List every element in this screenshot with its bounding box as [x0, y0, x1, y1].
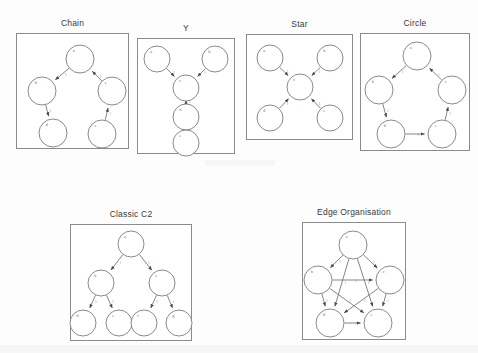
node-b — [304, 266, 332, 294]
edge-label-c-f: 1 — [156, 300, 158, 304]
node-d — [39, 119, 67, 147]
edge-label-a-b: 1 — [65, 73, 67, 77]
node-a — [339, 231, 367, 259]
edge-label-a-c: 1 — [286, 70, 288, 74]
edge-label-b-c: 1 — [355, 279, 357, 283]
node-b — [365, 76, 393, 104]
edge-e-to-c — [445, 107, 448, 120]
node-label-c: c — [179, 78, 181, 83]
node-g — [166, 310, 192, 336]
node-d — [173, 104, 199, 130]
node-a — [118, 231, 144, 257]
graph-circle: 11111abcde — [354, 18, 476, 154]
node-a — [257, 45, 283, 71]
node-e — [88, 120, 116, 148]
network-topologies-figure: Chain1111abcdeY1111abcdeStar1111abcdeCir… — [0, 0, 478, 353]
node-label-c: c — [445, 79, 447, 84]
edge-label-c-d: 1 — [364, 299, 366, 303]
edge-label-a-e: 1 — [368, 281, 370, 285]
node-label-c: c — [105, 80, 107, 85]
node-e — [106, 310, 132, 336]
node-c — [438, 76, 466, 104]
node-e — [364, 309, 392, 337]
edge-label-b-d: 1 — [95, 300, 97, 304]
edge-label-e-c: 1 — [449, 112, 451, 116]
edge-label-e-c: 1 — [109, 112, 111, 116]
node-label-c: c — [293, 77, 295, 82]
node-b — [28, 77, 56, 105]
edge-e-to-c — [105, 108, 108, 120]
node-label-e: e — [179, 133, 181, 138]
node-label-e: e — [371, 312, 373, 317]
edge-label-d-e: 1 — [355, 322, 357, 326]
edge-b-to-e — [330, 288, 364, 312]
node-c — [98, 77, 126, 105]
edge-a-to-b — [392, 66, 406, 79]
node-label-a: a — [150, 49, 152, 54]
node-d — [257, 105, 283, 131]
node-c — [376, 266, 404, 294]
node-c — [149, 270, 175, 296]
edge-label-b-c: 1 — [319, 70, 321, 74]
edge-label-c-a: 1 — [100, 75, 102, 79]
edge-label-a-b: 1 — [339, 260, 341, 264]
node-label-a: a — [263, 48, 265, 53]
edge-c-to-e — [383, 294, 386, 306]
edge-a-to-b — [55, 68, 69, 79]
panel-classic-c2: Classic C2111111abcdefg — [64, 209, 198, 344]
edge-label-a-b: 1 — [119, 261, 121, 265]
node-label-a: a — [124, 234, 126, 239]
edge-label-a-c: 1 — [148, 261, 150, 265]
node-label-b: b — [94, 273, 96, 278]
edge-label-a-d: 1 — [344, 281, 346, 285]
nodes-classic-c2: abcdefg — [70, 231, 192, 336]
node-e — [173, 130, 199, 156]
node-f — [131, 310, 157, 336]
edge-label-b-d: 1 — [326, 299, 328, 303]
edge-label-b-d: 1 — [50, 109, 52, 113]
node-label-e: e — [112, 313, 114, 318]
node-label-b: b — [372, 79, 374, 84]
node-label-e: e — [323, 108, 325, 113]
edge-label-a-c: 1 — [373, 260, 375, 264]
panel-y: Y1111abcde — [131, 23, 241, 157]
edge-label-b-d: 1 — [387, 109, 389, 113]
edge-label-b-c: 1 — [204, 71, 206, 75]
node-label-a: a — [346, 234, 348, 239]
panel-star: Star1111abcde — [240, 19, 359, 143]
edge-b-to-d — [383, 104, 387, 117]
edge-a-to-c — [364, 255, 378, 268]
node-a — [144, 46, 170, 72]
nodes-star: abcde — [257, 45, 343, 131]
node-label-b: b — [208, 49, 210, 54]
node-c — [173, 75, 199, 101]
node-label-a: a — [410, 45, 412, 50]
node-label-b: b — [311, 269, 313, 274]
panel-chain: Chain1111abcde — [10, 18, 135, 152]
node-label-b: b — [35, 80, 37, 85]
node-label-e: e — [95, 123, 97, 128]
edge-label-b-e: 1 — [112, 300, 114, 304]
edge-label-d-c: 1 — [286, 102, 288, 106]
node-b — [317, 45, 343, 71]
nodes-circle: abcde — [365, 42, 466, 148]
node-label-c: c — [383, 269, 385, 274]
edge-a-to-c — [139, 255, 151, 271]
edge-label-d-e: 1 — [418, 133, 420, 137]
graph-y: 1111abcde — [131, 23, 241, 157]
edge-a-to-d — [335, 259, 349, 306]
edge-label-c-e: 1 — [387, 299, 389, 303]
edge-b-to-d — [322, 294, 325, 306]
edge-label-a-b: 1 — [402, 70, 404, 74]
edge-label-c-a: 1 — [438, 73, 440, 77]
node-c — [287, 74, 313, 100]
edge-label-b-e: 1 — [349, 299, 351, 303]
node-d — [316, 309, 344, 337]
graph-classic-c2: 111111abcdefg — [64, 209, 198, 344]
node-label-c: c — [155, 273, 157, 278]
node-label-a: a — [73, 48, 75, 53]
edge-label-a-c: 1 — [173, 71, 175, 75]
nodes-y: abcde — [144, 46, 228, 156]
nodes-edge-organisation: abcde — [304, 231, 404, 337]
edge-b-to-d — [46, 105, 49, 116]
